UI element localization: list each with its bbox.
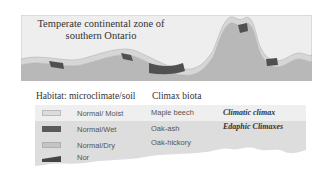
legend-row-normal-dry: Normal/Dry Oak-hickory <box>35 137 306 153</box>
dark-gray-swatch-icon <box>42 126 61 132</box>
habitat-label: Normal/Dry <box>77 141 115 150</box>
legend-header-habitat: Habitat: microclimate/soil <box>36 91 135 101</box>
climax-note: Climatic climax <box>223 108 275 117</box>
legend-table: Normal/ Moist Maple beech Climatic clima… <box>35 105 306 185</box>
legend-row-normal-wet: Normal/Wet Oak-ash Edaphic Climaxes <box>35 121 306 137</box>
habitat-label: Nor <box>77 153 89 162</box>
legend-header-biota: Climax biota <box>152 91 201 101</box>
medium-gray-swatch-icon <box>42 142 61 148</box>
light-gray-swatch-icon <box>42 110 61 116</box>
biota-label: Oak-hickory <box>151 138 191 147</box>
figure-title-line2: southern Ontario <box>21 30 181 42</box>
habitat-label: Normal/Wet <box>77 125 116 134</box>
biota-label: Maple beech <box>151 108 194 117</box>
legend-row-normal-moist: Normal/ Moist Maple beech Climatic clima… <box>35 105 306 121</box>
legend-row-truncated: Nor <box>35 152 306 164</box>
dark-wedge-swatch-icon <box>42 156 61 162</box>
figure-title-line1: Temperate continental zone of <box>21 18 181 30</box>
figure-title: Temperate continental zone of southern O… <box>21 18 181 42</box>
climax-note: Edaphic Climaxes <box>223 122 283 131</box>
habitat-label: Normal/ Moist <box>77 109 123 118</box>
biota-label: Oak-ash <box>151 124 179 133</box>
